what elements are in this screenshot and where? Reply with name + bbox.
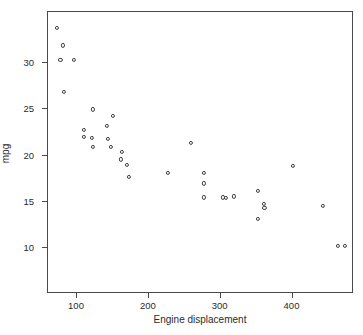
data-point [321, 204, 325, 208]
data-point [119, 150, 123, 154]
y-axis-tick [42, 108, 47, 109]
data-point [62, 90, 66, 94]
data-point [105, 124, 109, 128]
data-point [58, 58, 62, 62]
data-point [106, 137, 110, 141]
data-point [55, 26, 59, 30]
data-point [291, 164, 295, 168]
data-point [91, 107, 95, 111]
data-point [202, 181, 206, 185]
data-point [127, 175, 131, 179]
y-axis-tick-label: 15 [8, 195, 34, 206]
x-axis-tick [220, 293, 221, 298]
data-points-layer [48, 12, 352, 292]
data-point [109, 145, 113, 149]
data-point [82, 135, 86, 139]
x-axis-tick-label: 400 [272, 300, 312, 311]
data-point [256, 217, 260, 221]
x-axis-tick-label: 200 [128, 300, 168, 311]
data-point [189, 141, 193, 145]
y-axis-tick-label: 30 [8, 57, 34, 68]
data-point [119, 157, 123, 161]
data-point [202, 195, 206, 199]
plot-area [47, 11, 353, 293]
y-axis-tick [42, 201, 47, 202]
data-point [256, 189, 260, 193]
data-point [91, 145, 95, 149]
y-axis-tick [42, 62, 47, 63]
y-axis-tick-label: 20 [8, 149, 34, 160]
data-point [262, 205, 266, 209]
data-point [202, 171, 206, 175]
data-point [336, 243, 340, 247]
x-axis-tick-label: 100 [56, 300, 96, 311]
y-axis-tick [42, 155, 47, 156]
x-axis-tick [148, 293, 149, 298]
data-point [61, 43, 65, 47]
y-axis-tick [42, 247, 47, 248]
data-point [124, 163, 128, 167]
x-axis-tick [76, 293, 77, 298]
data-point [111, 114, 115, 118]
data-point [72, 58, 76, 62]
data-point [90, 136, 94, 140]
x-axis-tick-label: 300 [200, 300, 240, 311]
y-axis-tick-label: 10 [8, 242, 34, 253]
data-point [343, 243, 347, 247]
data-point [224, 196, 228, 200]
x-axis-label: Engine displacement [47, 314, 353, 325]
data-point [82, 128, 86, 132]
data-point [166, 171, 170, 175]
y-axis-tick-label: 25 [8, 103, 34, 114]
data-point [232, 194, 236, 198]
x-axis-tick [292, 293, 293, 298]
scatter-chart-figure: mpg Engine displacement 1015202530100200… [0, 0, 363, 335]
